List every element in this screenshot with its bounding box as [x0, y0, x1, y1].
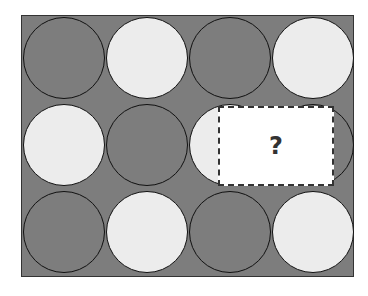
circle-r1c1	[23, 17, 105, 99]
circle-r3c4	[272, 191, 354, 273]
question-mark: ?	[269, 132, 283, 160]
circle-r1c2	[106, 17, 188, 99]
circle-r1c3	[189, 17, 271, 99]
missing-piece-box: ?	[218, 106, 334, 186]
circle-r2c2	[106, 104, 188, 186]
circle-r3c3	[189, 191, 271, 273]
circle-r3c1	[23, 191, 105, 273]
circle-r3c2	[106, 191, 188, 273]
circle-r2c1	[23, 104, 105, 186]
circle-r1c4	[272, 17, 354, 99]
